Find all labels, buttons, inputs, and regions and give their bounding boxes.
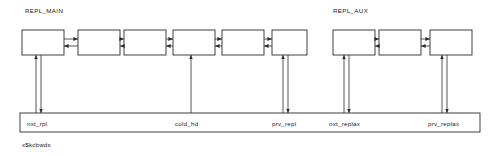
- diagram-canvas: REPL_MAIN REPL_AUX: [0, 0, 492, 156]
- group-label-repl-main: REPL_MAIN: [25, 7, 63, 14]
- buffer-node-aux-3[interactable]: [430, 30, 472, 55]
- pointer-arrow-prv-replax: [442, 55, 447, 113]
- buffer-node-aux-1[interactable]: [333, 30, 375, 55]
- buffer-node-main-1[interactable]: [22, 30, 64, 55]
- link-main-3-4: [166, 39, 173, 46]
- link-aux-2-3: [421, 39, 430, 46]
- link-aux-1-2: [375, 39, 379, 46]
- pointer-label-nxt-rpl: nxt_rpl: [27, 120, 47, 127]
- buffer-node-main-3[interactable]: [124, 30, 166, 55]
- link-main-2-3: [120, 39, 124, 46]
- node-chain-repl-aux: [333, 30, 472, 55]
- group-label-repl-aux: REPL_AUX: [333, 7, 368, 14]
- pointer-label-prv-repl: prv_repl: [272, 120, 296, 127]
- buffer-node-main-5[interactable]: [222, 30, 264, 55]
- link-main-4-5: [215, 39, 222, 46]
- pointer-label-prv-replax: prv_replax: [428, 120, 460, 127]
- group-labels: REPL_MAIN REPL_AUX: [25, 7, 368, 14]
- buffer-node-aux-2[interactable]: [379, 30, 421, 55]
- buffer-replacement-chain-diagram: REPL_MAIN REPL_AUX: [0, 0, 492, 156]
- buffer-node-main-2[interactable]: [78, 30, 120, 55]
- buffer-node-main-6[interactable]: [272, 30, 307, 55]
- pointer-arrow-prv-repl: [283, 55, 288, 113]
- pointer-label-cold-hd: cold_hd: [175, 120, 199, 127]
- link-main-5-6: [264, 39, 272, 46]
- struct-bar-kcbwds[interactable]: [20, 113, 480, 132]
- link-main-1-2: [64, 39, 78, 46]
- node-chain-repl-main: [22, 30, 307, 55]
- pointer-label-nxt-replax: nxt_replax: [329, 120, 361, 127]
- buffer-node-main-4[interactable]: [173, 30, 215, 55]
- diagram-caption: x$kcbwds: [22, 141, 51, 148]
- pointer-connectors: [36, 55, 447, 113]
- pointer-arrow-nxt-rpl: [36, 55, 41, 113]
- pointer-arrow-nxt-replax: [344, 55, 349, 113]
